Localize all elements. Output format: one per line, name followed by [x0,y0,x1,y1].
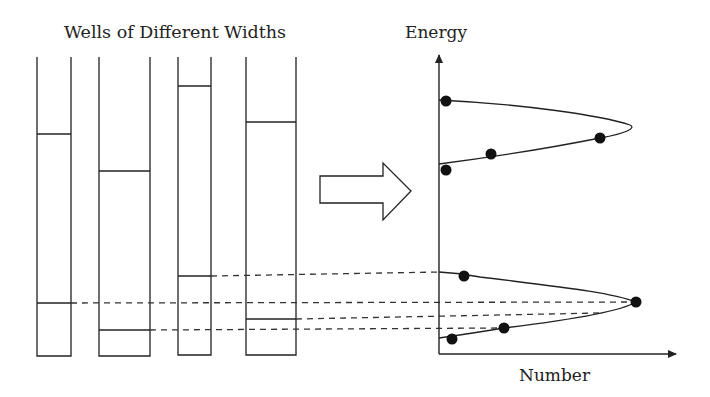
upper-band-curve [439,100,632,164]
wells-title: Wells of Different Widths [64,22,286,42]
state-point [486,149,497,160]
connector-well-2 [150,328,500,330]
well-2 [99,57,150,356]
state-point [595,133,606,144]
diagram-canvas: Wells of Different Widths Energy Number [0,0,710,397]
dashed-connectors [71,272,632,330]
state-point [447,334,458,345]
state-point [631,297,642,308]
connector-well-4 [296,313,600,319]
well-3 [178,57,211,355]
number-axis-label: Number [519,365,591,385]
state-point [459,271,470,282]
state-point [441,96,452,107]
state-point [441,165,452,176]
well-1 [37,57,71,356]
lower-band-curve [439,272,636,338]
energy-axis-label: Energy [405,22,467,42]
connector-well-1 [71,302,632,303]
transition-arrow-icon [320,163,411,220]
state-point [499,323,510,334]
well-4 [246,57,296,355]
state-points [441,96,642,345]
